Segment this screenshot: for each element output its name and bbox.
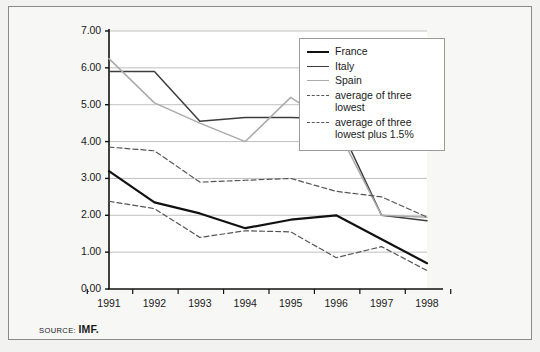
y-tick-label: 7.00: [61, 24, 101, 36]
y-tick-label: 1.00: [61, 245, 101, 257]
legend-swatch-icon: [307, 74, 329, 87]
x-tick-label: 1994: [225, 297, 265, 309]
y-tick-label: 2.00: [61, 208, 101, 220]
legend-swatch-icon: [307, 60, 329, 73]
chart-legend: FranceItalySpainaverage of three lowesta…: [299, 38, 445, 151]
x-tick-label: 1995: [271, 297, 311, 309]
y-tick-label: 5.00: [61, 98, 101, 110]
x-tick-label: 1991: [89, 297, 129, 309]
source-prefix: SOURCE:: [39, 326, 76, 335]
x-tick-label: 1993: [180, 297, 220, 309]
y-tick-label: 3.00: [61, 171, 101, 183]
legend-swatch-icon: [307, 116, 329, 129]
legend-item: Italy: [307, 60, 437, 73]
x-tick-label: 1997: [362, 297, 402, 309]
y-tick-label: 4.00: [61, 135, 101, 147]
series-line: [109, 171, 427, 263]
source-value: IMF.: [79, 323, 99, 335]
figure-container: 0.001.002.003.004.005.006.007.00 1991199…: [0, 0, 540, 352]
y-tick-label: 6.00: [61, 61, 101, 73]
x-tick-label: 1996: [316, 297, 356, 309]
y-tick-label: 0.00: [61, 282, 101, 294]
figure-frame: 0.001.002.003.004.005.006.007.00 1991199…: [8, 6, 532, 340]
legend-item: France: [307, 45, 437, 58]
legend-item: average of three lowest: [307, 89, 437, 114]
x-tick-label: 1998: [407, 297, 447, 309]
series-line: [109, 147, 427, 217]
legend-item: average of three lowest plus 1.5%: [307, 116, 437, 141]
legend-item-label: Italy: [335, 60, 354, 73]
legend-item-label: average of three lowest: [335, 89, 437, 114]
legend-item-label: Spain: [335, 74, 362, 87]
legend-swatch-icon: [307, 45, 329, 58]
legend-item-label: France: [335, 45, 368, 58]
legend-item-label: average of three lowest plus 1.5%: [335, 116, 437, 141]
x-tick-label: 1992: [134, 297, 174, 309]
source-note: SOURCE: IMF.: [39, 323, 99, 335]
legend-item: Spain: [307, 74, 437, 87]
legend-swatch-icon: [307, 89, 329, 102]
